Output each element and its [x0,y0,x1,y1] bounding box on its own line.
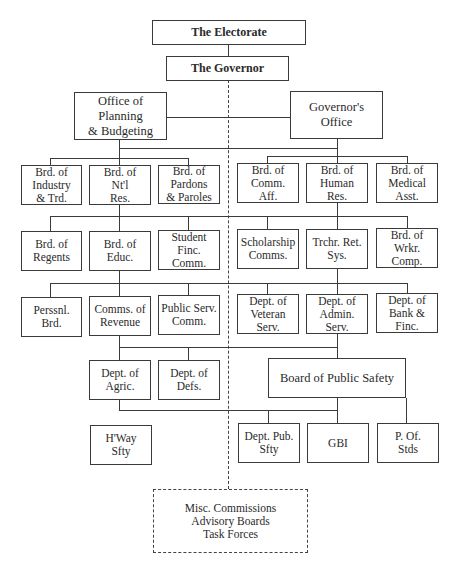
drop-row2-r1 [267,216,268,229]
node-electorate: The Electorate [152,20,306,45]
drop-row2-l1 [50,216,51,231]
node-brd-natural-resources: Brd. of Nt'l Res. [89,165,151,205]
bracket-row5 [119,410,337,411]
drop-row3-r1 [267,283,268,294]
node-dept-public-safety: Dept. Pub. Sfty [238,423,300,463]
node-teacher-retirement-sys: Trchr. Ret. Sys. [306,229,368,269]
drop-row3-l1 [50,283,51,297]
node-gbi: GBI [307,423,369,463]
drop-row2-l3 [188,216,189,231]
node-brd-human-resources: Brd. of Human Res. [306,163,368,203]
node-post-standards: P. Of. Stds [377,423,439,463]
node-office-planning-budgeting: Office of Planning & Budgeting [74,92,167,140]
connector-governor-misc-dashed [228,80,229,489]
bracket-row4 [119,347,337,348]
bracket-row3 [50,283,407,284]
node-comms-revenue: Comms. of Revenue [89,296,151,336]
node-dept-admin-serv: Dept. of Admin. Serv. [306,294,368,334]
connector-bar-148 [119,148,337,149]
node-misc-commissions: Misc. Commissions Advisory Boards Task F… [153,489,308,553]
node-public-service-comm: Public Serv. Comm. [158,295,220,335]
drop-row1-left-1 [50,158,51,165]
node-dept-veteran-serv: Dept. of Veteran Serv. [237,294,299,334]
node-brd-community-affairs: Brd. of Comm. Aff. [237,163,299,203]
node-brd-regents: Brd. of Regents [21,231,82,271]
drop-row1-left-3 [188,158,189,165]
node-brd-pardons-paroles: Brd. of Pardons & Paroles [158,165,220,204]
drop-row1-right-1 [267,156,268,163]
drop-row5-post [406,398,407,423]
node-student-finance-comm: Student Finc. Comm. [158,230,220,270]
node-dept-agriculture: Dept. of Agric. [89,360,151,400]
bracket-row1-right [267,156,407,157]
node-dept-defense: Dept. of Defs. [158,360,220,400]
org-chart: The Electorate The Governor Office of Pl… [0,0,459,572]
connector-electorate-governor [228,44,229,56]
drop-row5-dps [268,410,269,423]
node-brd-medical-assistance: Brd. of Medical Asst. [376,163,438,203]
node-highway-safety: H'Way Sfty [90,425,152,465]
node-brd-education: Brd. of Educ. [89,231,151,271]
node-brd-industry-trade: Brd. of Industry & Trd. [21,165,82,205]
drop-row1-right-3 [407,156,408,163]
connector-opb-down [119,140,120,158]
node-dept-bank-finance: Dept. of Bank & Finc. [376,293,438,333]
connector-opb-govoffice [167,117,290,118]
drop-row4-defs [188,347,189,360]
node-brd-workers-comp: Brd. of Wrkr. Comp. [376,228,438,268]
node-personnel-brd: Perssnl. Brd. [21,297,82,337]
node-board-public-safety: Board of Public Safety [268,358,406,398]
node-governors-office: Governor's Office [290,91,383,139]
bracket-row2 [50,216,407,217]
node-scholarship-comms: Scholarship Comms. [237,229,299,269]
node-governor: The Governor [166,56,289,81]
